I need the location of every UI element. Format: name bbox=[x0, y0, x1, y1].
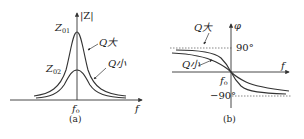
figure-canvas: |Z| Z01 Z02 Q大 Q小 f fo (a) Q大 Q小 φ 90° f… bbox=[0, 0, 304, 139]
peak-high-label: Z01 bbox=[54, 22, 70, 35]
caption-b: (b) bbox=[223, 114, 236, 124]
figure-b: Q大 Q小 φ 90° f fo −90° (b) bbox=[170, 20, 292, 124]
origin-fo-b: fo bbox=[219, 75, 228, 87]
pointer-low-q-a bbox=[94, 68, 106, 79]
curve-high-q-label-a: Q大 bbox=[99, 37, 118, 48]
pointer-high-q-b bbox=[204, 33, 209, 44]
label-minus-90-deg: −90° bbox=[210, 90, 236, 101]
x-axis-label-b: f bbox=[280, 60, 287, 71]
curve-high-q-label-b: Q大 bbox=[194, 22, 213, 33]
pointer-high-q-a bbox=[88, 44, 98, 50]
curve-low-q-label-b: Q小 bbox=[182, 59, 201, 70]
peak-low-label: Z02 bbox=[45, 63, 61, 76]
y-axis-label-b: φ bbox=[234, 20, 241, 31]
caption-a: (a) bbox=[69, 114, 81, 124]
curve-low-q-label-a: Q小 bbox=[108, 58, 127, 69]
x-axis-label-a: f bbox=[134, 103, 141, 114]
label-90-deg: 90° bbox=[236, 42, 254, 53]
figure-a: |Z| Z01 Z02 Q大 Q小 f fo (a) bbox=[10, 10, 142, 124]
y-axis-label-a: |Z| bbox=[80, 10, 94, 22]
